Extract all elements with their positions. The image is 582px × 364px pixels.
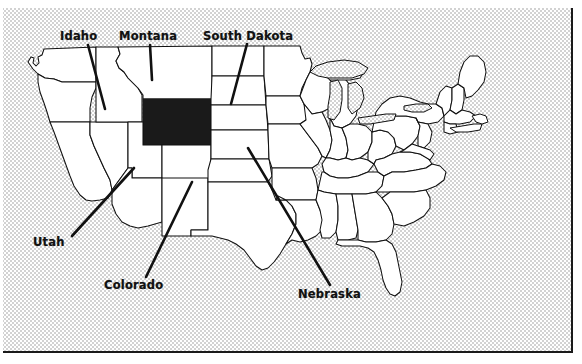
map-label-colorado: Colorado: [104, 278, 163, 292]
map-plate: [3, 8, 573, 353]
map-label-montana: Montana: [119, 29, 177, 43]
map-label-idaho: Idaho: [60, 29, 97, 43]
us-locator-map-figure: Idaho Montana South Dakota Utah Colorado…: [0, 0, 582, 364]
map-label-utah: Utah: [33, 235, 65, 249]
map-label-nebraska: Nebraska: [298, 287, 361, 301]
map-label-south-dakota: South Dakota: [203, 29, 293, 43]
